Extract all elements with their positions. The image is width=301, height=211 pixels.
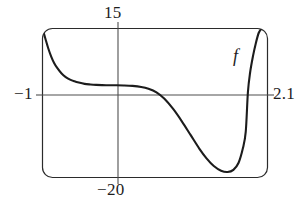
x-axis-min-label: −1 [14, 85, 33, 102]
y-axis-max-label: 15 [104, 4, 122, 21]
x-axis-max-label: 2.1 [273, 85, 295, 102]
y-axis-min-label: −20 [97, 181, 125, 198]
curve-name-label: f [233, 47, 238, 65]
function-plot [0, 0, 301, 211]
graph-figure: 15 −20 −1 2.1 f [0, 0, 301, 211]
